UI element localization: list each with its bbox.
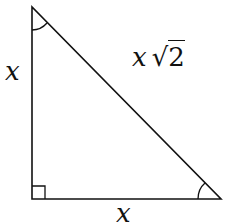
bottom-right-angle-arc — [198, 183, 205, 199]
triangle-outline — [32, 7, 221, 199]
hypotenuse-variable: x — [132, 42, 147, 72]
triangle-diagram — [0, 0, 234, 224]
radicand: 2 — [168, 40, 185, 72]
right-angle-marker — [32, 186, 45, 199]
bottom-leg-label: x — [116, 200, 131, 224]
hypotenuse-label: x √2 — [132, 44, 185, 70]
square-root-sign: √ — [152, 42, 169, 72]
left-leg-label: x — [5, 58, 20, 84]
top-angle-arc — [32, 23, 47, 30]
